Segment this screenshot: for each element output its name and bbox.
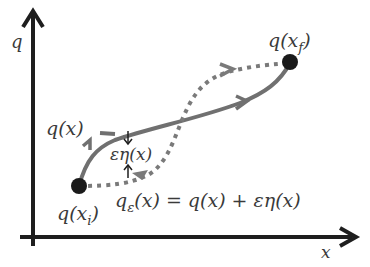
initial-point <box>71 178 87 194</box>
x-axis-label: x <box>321 244 331 261</box>
x-axis <box>20 228 356 246</box>
y-axis <box>23 11 43 246</box>
arrow-icon <box>83 140 90 150</box>
varied-path-equation: qε(x) = q(x) + εη(x) <box>115 191 301 214</box>
final-point <box>282 54 298 70</box>
y-axis-label: q <box>11 33 23 51</box>
final-point-label: q(xf) <box>268 31 311 54</box>
arrow-icon <box>220 64 233 76</box>
true-path-label: q(x) <box>46 119 84 138</box>
varied-path <box>79 63 290 186</box>
diagram-canvas: q x q(xf) q(x) εη(x) q(xi) qε(x) = q(x) … <box>0 0 370 267</box>
initial-point-label: q(xi) <box>57 204 99 227</box>
variation-label: εη(x) <box>110 146 152 163</box>
true-path <box>79 63 290 186</box>
